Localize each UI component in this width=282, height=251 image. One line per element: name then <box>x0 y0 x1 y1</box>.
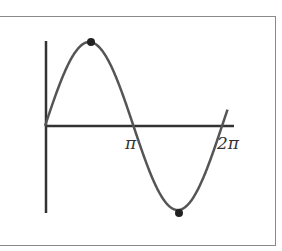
sine-graph: π 2π <box>0 0 282 251</box>
x-tick-label-pi: π <box>124 133 137 153</box>
x-tick-label-2pi: 2π <box>216 133 240 153</box>
maximum-point <box>87 38 95 46</box>
minimum-point <box>175 209 183 217</box>
